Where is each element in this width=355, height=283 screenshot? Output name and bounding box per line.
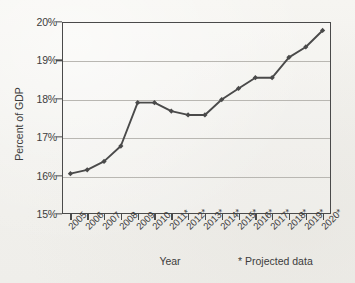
y-tick-label: 19%	[11, 54, 57, 66]
plot-area	[62, 22, 331, 214]
gridline	[63, 100, 330, 101]
y-tick-label: 16%	[11, 170, 57, 182]
y-tick-label: 20%	[11, 16, 57, 28]
x-axis-title: Year	[140, 255, 200, 267]
y-tick-label: 15%	[11, 208, 57, 220]
gridline	[63, 61, 330, 62]
y-tick-label: 17%	[11, 131, 57, 143]
y-axis-title: Percent of GDP	[13, 64, 25, 184]
y-tick-label: 18%	[11, 93, 57, 105]
chart-screenshot: Percent of GDP 15%16%17%18%19%20% 200520…	[0, 0, 355, 283]
gridline	[63, 177, 330, 178]
projected-data-footnote: * Projected data	[238, 255, 313, 267]
gridline	[63, 138, 330, 139]
